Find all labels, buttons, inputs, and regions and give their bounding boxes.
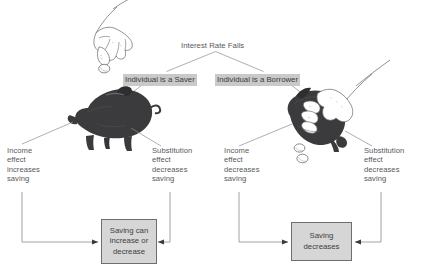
root-label-interest-rate-falls: Interest Rate Falls bbox=[181, 41, 244, 50]
outcome-box-saving-decreases: Saving decreases bbox=[291, 222, 352, 261]
outcome-box-saving-can-increase-or-decrease: Saving can increase or decrease bbox=[101, 219, 157, 264]
root-fork-connector bbox=[167, 52, 264, 72]
branch-label-borrower: Individual is a Borrower bbox=[215, 74, 300, 86]
branch-label-saver: Individual is a Saver bbox=[123, 74, 197, 86]
borrower-substitution-to-outcome-connector bbox=[355, 192, 381, 242]
borrower-income-to-outcome-connector bbox=[239, 192, 288, 242]
saver-substitution-to-outcome-connector bbox=[158, 192, 170, 242]
effect-caption-saver-income: Income effect increases saving bbox=[7, 146, 40, 184]
effect-caption-borrower-substitution: Substitution effect decreases saving bbox=[364, 146, 404, 184]
effect-caption-borrower-income: Income effect decreases saving bbox=[224, 146, 260, 184]
saver-income-to-outcome-connector bbox=[22, 192, 98, 242]
diagram-canvas: Interest Rate Falls Individual is a Save… bbox=[0, 0, 432, 280]
effect-caption-saver-substitution: Substitution effect decreases saving bbox=[152, 146, 192, 184]
